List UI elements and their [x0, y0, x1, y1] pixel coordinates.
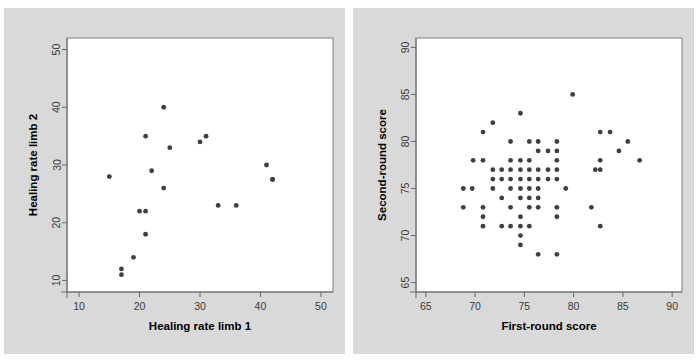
data-point[interactable]: [149, 168, 154, 173]
data-point[interactable]: [481, 205, 486, 210]
data-point[interactable]: [608, 130, 613, 135]
data-point[interactable]: [119, 267, 124, 272]
data-point[interactable]: [554, 158, 559, 163]
data-point[interactable]: [598, 224, 603, 229]
data-point[interactable]: [554, 177, 559, 182]
data-point[interactable]: [198, 140, 203, 145]
data-point[interactable]: [546, 167, 551, 172]
data-point[interactable]: [536, 139, 541, 144]
data-point[interactable]: [481, 158, 486, 163]
scatter-plot-round-scores[interactable]: 657075808590657075808590First-round scor…: [353, 8, 694, 354]
data-point[interactable]: [143, 232, 148, 237]
data-point[interactable]: [518, 177, 523, 182]
scatter-plot-healing-rate[interactable]: 10203040501020304050Healing rate limb 1H…: [4, 8, 345, 354]
data-point[interactable]: [461, 205, 466, 210]
data-point[interactable]: [563, 186, 568, 191]
data-point[interactable]: [554, 205, 559, 210]
data-point[interactable]: [518, 243, 523, 248]
data-point[interactable]: [508, 224, 513, 229]
y-axis-title: Healing rate limb 2: [27, 114, 39, 216]
data-point[interactable]: [527, 196, 532, 201]
data-point[interactable]: [508, 158, 513, 163]
data-point[interactable]: [598, 167, 603, 172]
data-point[interactable]: [518, 111, 523, 116]
data-point[interactable]: [637, 158, 642, 163]
data-point[interactable]: [137, 209, 142, 214]
data-point[interactable]: [107, 174, 112, 179]
data-point[interactable]: [536, 196, 541, 201]
data-point[interactable]: [518, 186, 523, 191]
data-point[interactable]: [527, 186, 532, 191]
data-point[interactable]: [508, 139, 513, 144]
data-point[interactable]: [481, 214, 486, 219]
data-point[interactable]: [536, 205, 541, 210]
scatter-panel-right: 657075808590657075808590First-round scor…: [353, 8, 694, 354]
data-point[interactable]: [508, 205, 513, 210]
data-point[interactable]: [470, 186, 475, 191]
data-point[interactable]: [499, 196, 504, 201]
data-point[interactable]: [546, 148, 551, 153]
data-point[interactable]: [490, 177, 495, 182]
data-point[interactable]: [167, 145, 172, 150]
data-point[interactable]: [143, 134, 148, 139]
plot-area-background: [67, 38, 333, 292]
data-point[interactable]: [554, 148, 559, 153]
data-point[interactable]: [536, 148, 541, 153]
data-point[interactable]: [461, 186, 466, 191]
data-point[interactable]: [536, 252, 541, 257]
data-point[interactable]: [518, 224, 523, 229]
data-point[interactable]: [518, 196, 523, 201]
data-point[interactable]: [490, 120, 495, 125]
data-point[interactable]: [527, 158, 532, 163]
data-point[interactable]: [499, 177, 504, 182]
data-point[interactable]: [518, 214, 523, 219]
data-point[interactable]: [508, 177, 513, 182]
data-point[interactable]: [481, 224, 486, 229]
data-point[interactable]: [471, 158, 476, 163]
data-point[interactable]: [499, 224, 504, 229]
y-tick-label: 75: [400, 183, 412, 195]
data-point[interactable]: [508, 167, 513, 172]
data-point[interactable]: [161, 186, 166, 191]
data-point[interactable]: [625, 139, 630, 144]
data-point[interactable]: [216, 203, 221, 208]
x-axis-title: First-round score: [501, 320, 596, 332]
data-point[interactable]: [499, 167, 504, 172]
data-point[interactable]: [204, 134, 209, 139]
data-point[interactable]: [598, 158, 603, 163]
data-point[interactable]: [593, 167, 598, 172]
data-point[interactable]: [554, 252, 559, 257]
data-point[interactable]: [161, 105, 166, 110]
data-point[interactable]: [546, 177, 551, 182]
data-point[interactable]: [527, 167, 532, 172]
data-point[interactable]: [589, 205, 594, 210]
data-point[interactable]: [536, 186, 541, 191]
data-point[interactable]: [481, 130, 486, 135]
data-point[interactable]: [264, 163, 269, 168]
data-point[interactable]: [536, 167, 541, 172]
data-point[interactable]: [490, 167, 495, 172]
data-point[interactable]: [554, 214, 559, 219]
data-point[interactable]: [554, 167, 559, 172]
data-point[interactable]: [527, 205, 532, 210]
data-point[interactable]: [527, 224, 532, 229]
data-point[interactable]: [508, 186, 513, 191]
data-point[interactable]: [536, 177, 541, 182]
data-point[interactable]: [131, 255, 136, 260]
data-point[interactable]: [570, 92, 575, 97]
data-point[interactable]: [490, 186, 495, 191]
data-point[interactable]: [598, 130, 603, 135]
data-point[interactable]: [270, 177, 275, 182]
y-tick-label: 70: [400, 230, 412, 242]
x-tick-label: 70: [469, 300, 481, 312]
data-point[interactable]: [518, 158, 523, 163]
data-point[interactable]: [518, 233, 523, 238]
data-point[interactable]: [527, 177, 532, 182]
data-point[interactable]: [119, 272, 124, 277]
data-point[interactable]: [518, 167, 523, 172]
data-point[interactable]: [554, 139, 559, 144]
data-point[interactable]: [143, 209, 148, 214]
data-point[interactable]: [234, 203, 239, 208]
data-point[interactable]: [617, 148, 622, 153]
data-point[interactable]: [527, 139, 532, 144]
